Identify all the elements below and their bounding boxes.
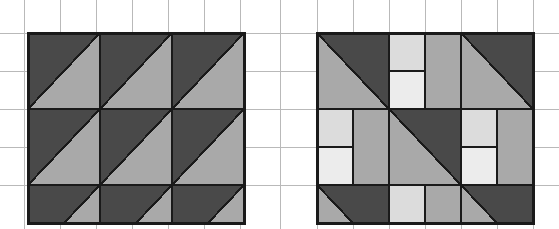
left-pattern[interactable]	[28, 33, 244, 229]
pattern-tiles	[28, 33, 244, 229]
pattern-figure	[0, 0, 559, 229]
pattern-tile[interactable]	[461, 33, 533, 109]
pattern-tile[interactable]	[172, 109, 244, 185]
pattern-tiles	[317, 33, 533, 229]
pattern-tile[interactable]	[100, 109, 172, 185]
tile-square-light-top	[389, 33, 425, 71]
tile-square-light-top	[461, 109, 497, 147]
tile-square-light-bottom	[317, 147, 353, 185]
tile-square-light-bottom	[389, 71, 425, 109]
right-pattern[interactable]	[317, 33, 533, 229]
pattern-tile[interactable]	[172, 33, 244, 109]
figure-canvas	[0, 0, 559, 229]
tile-square-light-top	[389, 185, 425, 223]
pattern-tile[interactable]	[28, 109, 100, 185]
tile-square-light-top	[317, 109, 353, 147]
pattern-tile[interactable]	[389, 109, 461, 185]
pattern-tile[interactable]	[317, 109, 389, 185]
pattern-tile[interactable]	[389, 33, 461, 109]
pattern-tile[interactable]	[28, 33, 100, 109]
pattern-tile[interactable]	[317, 33, 389, 109]
tile-square-light-bottom	[461, 147, 497, 185]
pattern-tile[interactable]	[100, 33, 172, 109]
pattern-tile[interactable]	[461, 109, 533, 185]
